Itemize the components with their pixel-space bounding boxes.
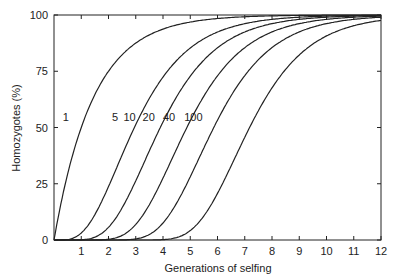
curve-100 <box>54 20 381 240</box>
curve-1 <box>54 15 381 240</box>
curve-label-5: 5 <box>112 111 118 123</box>
x-tick-label: 4 <box>160 245 166 257</box>
y-tick-label: 25 <box>36 178 48 190</box>
x-tick-label: 9 <box>296 245 302 257</box>
curve-20 <box>54 16 381 240</box>
y-axis: 0255075100 <box>30 9 381 246</box>
curve-5 <box>54 15 381 240</box>
x-tick-label: 8 <box>269 245 275 257</box>
x-tick-label: 1 <box>78 245 84 257</box>
curve-label-10: 10 <box>124 111 136 123</box>
x-axis: 123456789101112 <box>78 15 387 257</box>
y-tick-label: 0 <box>42 234 48 246</box>
y-tick-label: 75 <box>36 65 48 77</box>
x-tick-label: 11 <box>348 245 359 257</box>
curve-label-100: 100 <box>184 111 202 123</box>
curve-40 <box>54 17 381 240</box>
x-tick-label: 7 <box>242 245 248 257</box>
plot-frame <box>54 15 381 240</box>
x-tick-label: 3 <box>133 245 139 257</box>
curve-label-1: 1 <box>63 111 69 123</box>
curve-label-20: 20 <box>143 111 155 123</box>
y-tick-label: 50 <box>36 122 48 134</box>
y-tick-label: 100 <box>30 9 48 21</box>
x-tick-label: 12 <box>375 245 387 257</box>
x-tick-label: 2 <box>105 245 111 257</box>
x-tick-label: 10 <box>320 245 332 257</box>
curve-10 <box>54 16 381 241</box>
homozygotes-chart: 123456789101112 0255075100 15102040100 G… <box>0 0 405 280</box>
x-tick-label: 6 <box>214 245 220 257</box>
curve-label-40: 40 <box>163 111 175 123</box>
curves: 15102040100 <box>54 15 381 240</box>
y-axis-title: Homozygotes (%) <box>10 84 22 171</box>
x-tick-label: 5 <box>187 245 193 257</box>
x-axis-title: Generations of selfing <box>164 262 271 274</box>
